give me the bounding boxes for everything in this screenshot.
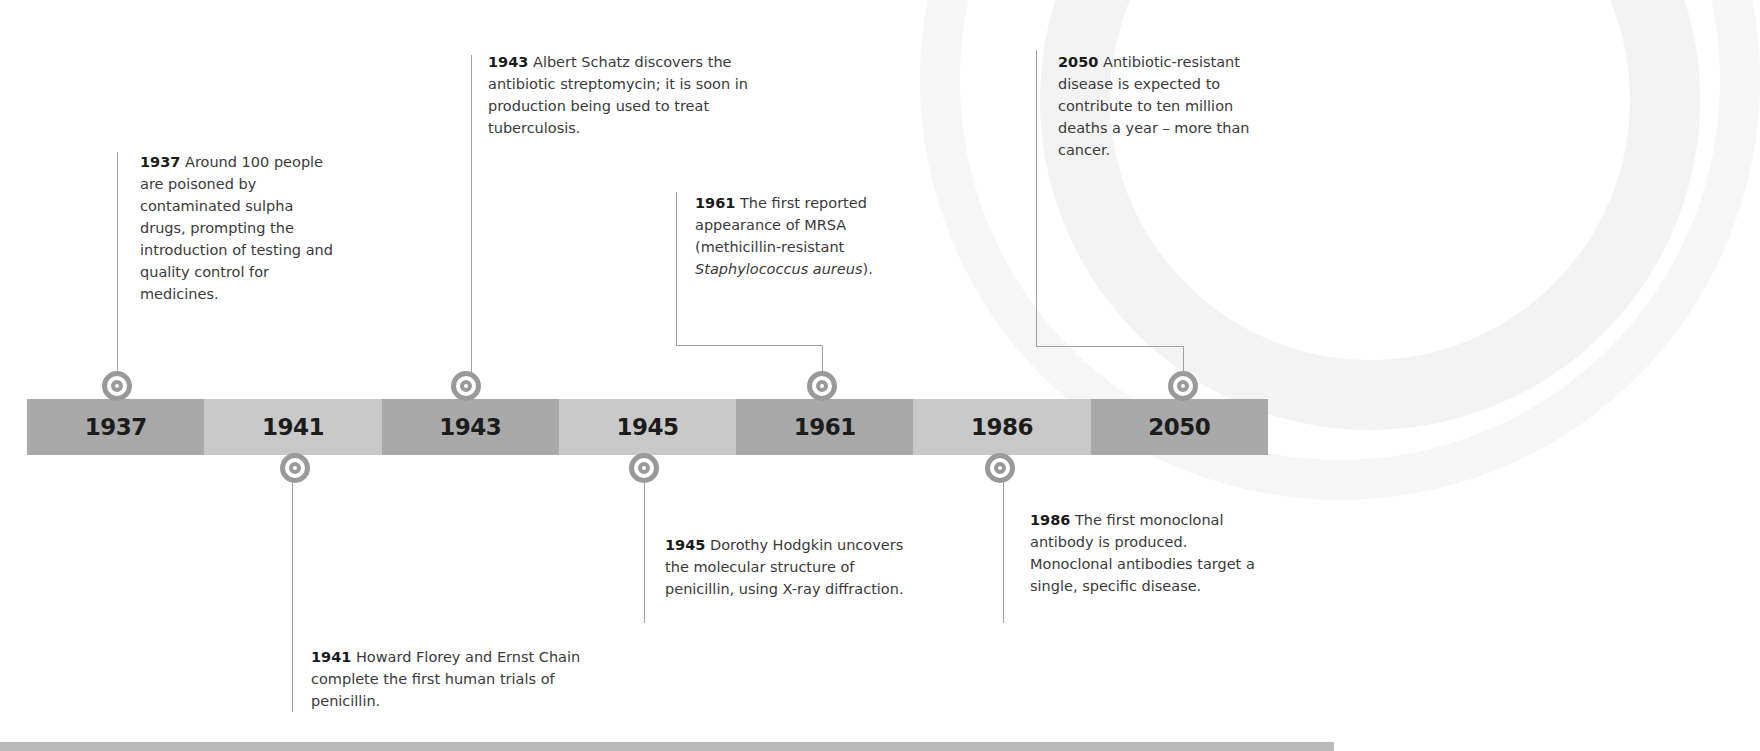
connector-2050-vertical xyxy=(1036,50,1037,346)
connector-1937 xyxy=(117,152,118,372)
event-2050: 2050 Antibiotic-resistant disease is exp… xyxy=(1058,51,1278,161)
event-text-after: ). xyxy=(863,261,873,277)
event-1937: 1937 Around 100 people are poisoned by c… xyxy=(140,151,340,305)
event-year: 2050 xyxy=(1058,54,1098,70)
segment-1941: 1941 xyxy=(204,399,381,455)
connector-1945 xyxy=(644,482,645,623)
event-text: Howard Florey and Ernst Chain complete t… xyxy=(311,649,580,709)
segment-1937: 1937 xyxy=(27,399,204,455)
event-text: Around 100 people are poisoned by contam… xyxy=(140,154,333,302)
target-marker-icon-2050 xyxy=(1168,371,1198,401)
connector-1961-vertical xyxy=(676,192,677,346)
target-marker-icon-1941 xyxy=(280,453,310,483)
target-marker-icon-1986 xyxy=(985,453,1015,483)
event-1945: 1945 Dorothy Hodgkin uncovers the molecu… xyxy=(665,534,915,600)
connector-2050-horizontal xyxy=(1036,346,1183,347)
event-1986: 1986 The first monoclonal antibody is pr… xyxy=(1030,509,1270,597)
segment-2050: 2050 xyxy=(1091,399,1268,455)
event-year: 1986 xyxy=(1030,512,1070,528)
connector-1961-drop xyxy=(822,345,823,373)
event-year: 1961 xyxy=(695,195,735,211)
event-year: 1943 xyxy=(488,54,528,70)
target-marker-icon-1943 xyxy=(451,371,481,401)
target-marker-icon-1945 xyxy=(629,453,659,483)
segment-1943: 1943 xyxy=(382,399,559,455)
event-year: 1941 xyxy=(311,649,351,665)
event-1941: 1941 Howard Florey and Ernst Chain compl… xyxy=(311,646,581,712)
target-marker-icon-1937 xyxy=(102,371,132,401)
target-marker-icon-1961 xyxy=(807,371,837,401)
bottom-band xyxy=(0,742,1334,751)
connector-1961-horizontal xyxy=(676,345,822,346)
event-year: 1937 xyxy=(140,154,180,170)
connector-1986 xyxy=(1003,482,1004,623)
segment-1945: 1945 xyxy=(559,399,736,455)
segment-1961: 1961 xyxy=(736,399,913,455)
connector-2050-drop xyxy=(1183,346,1184,373)
segment-1986: 1986 xyxy=(913,399,1090,455)
timeline-bar: 1937 1941 1943 1945 1961 1986 2050 xyxy=(27,399,1268,455)
connector-1941 xyxy=(292,482,293,712)
event-text-italic: Staphylococcus aureus xyxy=(695,261,863,277)
event-year: 1945 xyxy=(665,537,705,553)
event-1943: 1943 Albert Schatz discovers the antibio… xyxy=(488,51,803,139)
connector-1943 xyxy=(471,55,472,373)
event-1961: 1961 The first reported appearance of MR… xyxy=(695,192,925,280)
